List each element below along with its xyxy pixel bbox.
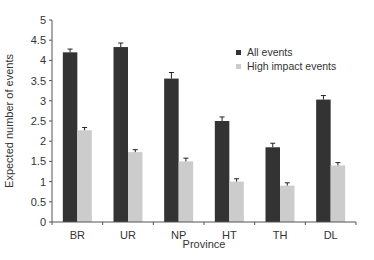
legend-swatch-high-impact-events	[236, 64, 241, 69]
bar-ht-high-impact-events	[229, 182, 244, 222]
bar-ur-high-impact-events	[128, 152, 143, 222]
bar-dl-high-impact-events	[331, 165, 346, 222]
y-tick-label: 4.5	[31, 34, 46, 46]
x-tick-label: TH	[273, 229, 288, 241]
legend: All events High impact events	[236, 46, 336, 72]
y-tick-label: 2	[40, 135, 46, 147]
y-tick-label: 0.5	[31, 196, 46, 208]
bar-th-high-impact-events	[280, 186, 295, 222]
x-tick-label: UR	[120, 229, 136, 241]
bar-ht-all-events	[215, 121, 230, 222]
bar-th-all-events	[266, 147, 281, 222]
y-tick-label: 5	[40, 14, 46, 26]
y-tick-label: 1	[40, 176, 46, 188]
legend-swatch-all-events	[236, 50, 241, 55]
bar-br-high-impact-events	[77, 130, 92, 222]
x-tick-label: BR	[70, 229, 85, 241]
bar-np-all-events	[164, 79, 179, 222]
legend-label-high-impact-events: High impact events	[247, 60, 336, 72]
y-tick-label: 0	[40, 216, 46, 228]
bar-ur-all-events	[114, 47, 129, 222]
x-tick-label: DL	[324, 229, 338, 241]
bar-chart: 00.511.522.533.544.55 BRURNPHTTHDL Expec…	[0, 0, 374, 260]
y-tick-label: 1.5	[31, 155, 46, 167]
bar-br-all-events	[63, 52, 77, 222]
y-tick-label: 4	[40, 54, 46, 66]
x-axis-title: Province	[183, 238, 226, 250]
bar-np-high-impact-events	[179, 161, 194, 222]
y-tick-label: 2.5	[31, 115, 46, 127]
y-axis-title: Expected number of events	[3, 54, 15, 188]
y-tick-label: 3.5	[31, 75, 46, 87]
y-tick-label: 3	[40, 95, 46, 107]
bars-group	[63, 47, 345, 222]
legend-label-all-events: All events	[247, 46, 293, 58]
y-axis: 00.511.522.533.544.55	[31, 14, 52, 228]
bar-dl-all-events	[316, 100, 331, 222]
